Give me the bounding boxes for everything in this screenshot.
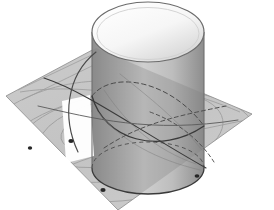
point-lower — [100, 188, 105, 192]
figure-root — [0, 0, 274, 210]
point-left — [28, 146, 32, 149]
point-center — [68, 139, 73, 143]
highlight-patch — [62, 95, 94, 163]
geometry-figure — [0, 0, 274, 210]
point-right — [195, 174, 200, 178]
cylinder-top-cap — [92, 2, 204, 62]
